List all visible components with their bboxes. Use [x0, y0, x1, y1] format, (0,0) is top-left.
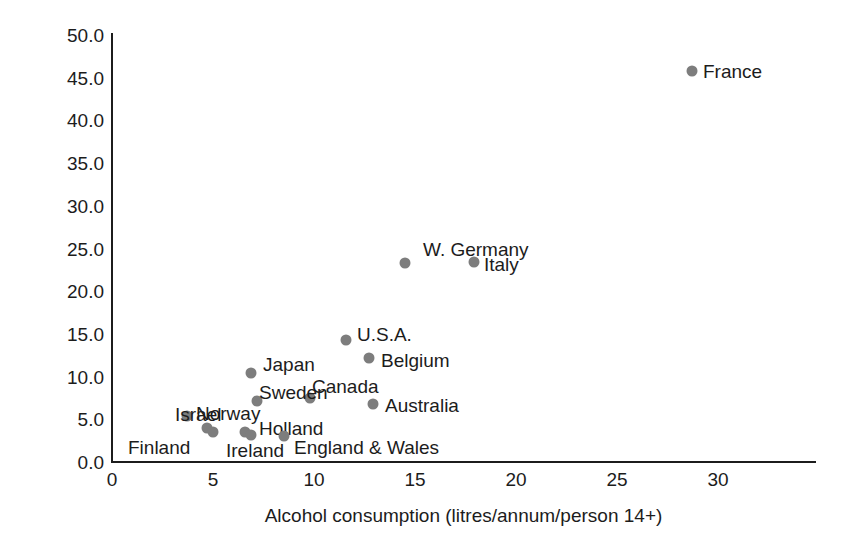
data-point: [399, 258, 410, 269]
data-point-label: Sweden: [259, 383, 328, 402]
data-point: [208, 427, 219, 438]
data-point: [246, 368, 257, 379]
data-point-label: Australia: [385, 396, 459, 415]
scatter-plot-figure: 0.05.010.015.020.025.030.035.040.045.050…: [0, 0, 841, 548]
data-point-label: Holland: [259, 419, 323, 438]
data-point: [686, 65, 697, 76]
data-point-label: France: [703, 62, 762, 81]
data-point-label: Italy: [484, 255, 519, 274]
data-point-label: Finland: [128, 438, 190, 457]
data-point: [363, 352, 374, 363]
data-point: [246, 429, 257, 440]
data-point-label: Japan: [263, 355, 315, 374]
plot-area: FranceW. GermanyItalyU.S.A.BelgiumJapanC…: [0, 0, 841, 548]
data-point: [468, 257, 479, 268]
data-point: [367, 398, 378, 409]
data-point-label: Ireland: [226, 441, 284, 460]
data-point-label: England & Wales: [294, 438, 439, 457]
data-point: [341, 334, 352, 345]
data-point-label: U.S.A.: [357, 325, 412, 344]
data-point: [278, 430, 289, 441]
data-point-label: Belgium: [381, 351, 450, 370]
data-point-label: Norway: [196, 404, 260, 423]
